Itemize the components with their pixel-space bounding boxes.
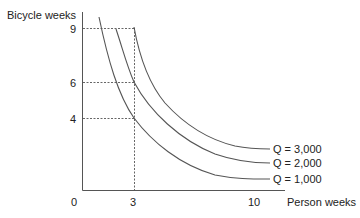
x-axis-label: Person weeks [287, 196, 356, 208]
dashed-guides [83, 28, 135, 190]
y-tick-4: 4 [70, 113, 76, 125]
y-axis-label: Bicycle weeks [7, 9, 76, 21]
legend-q2000: Q = 2,000 [273, 157, 322, 169]
isoquant-chart: Bicycle weeks 9 6 4 0 3 10 Person weeks … [0, 0, 360, 218]
y-tick-9: 9 [70, 23, 76, 35]
isoquant-q1000 [99, 17, 270, 179]
x-tick-10: 10 [248, 196, 260, 208]
x-tick-3: 3 [130, 196, 136, 208]
isoquant-q3000 [134, 27, 270, 149]
chart-plot [0, 0, 360, 218]
legend-q1000: Q = 1,000 [273, 173, 322, 185]
legend-q3000: Q = 3,000 [273, 143, 322, 155]
origin-label: 0 [71, 196, 77, 208]
y-tick-6: 6 [70, 77, 76, 89]
